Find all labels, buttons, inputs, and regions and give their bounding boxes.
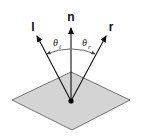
label-r: r bbox=[109, 20, 114, 34]
label-theta-i: θ bbox=[53, 37, 58, 48]
diagram-svg: n l r θ i θ r bbox=[0, 0, 141, 136]
reflection-diagram: n l r θ i θ r bbox=[0, 0, 141, 136]
reflection-point bbox=[68, 98, 73, 103]
angle-arc-theta-r bbox=[72, 49, 95, 54]
label-theta-r: θ bbox=[82, 37, 87, 48]
label-l: l bbox=[31, 20, 34, 34]
label-theta-i-subscript: i bbox=[59, 43, 61, 51]
label-n: n bbox=[67, 10, 74, 24]
label-theta-r-subscript: r bbox=[88, 43, 91, 51]
